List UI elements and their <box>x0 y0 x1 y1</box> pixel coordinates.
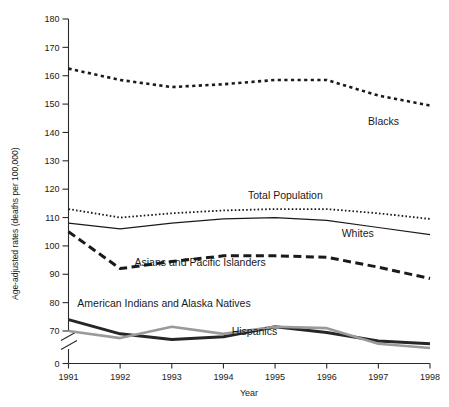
series-label-american-indians-and-alaska-natives: American Indians and Alaska Natives <box>77 297 250 309</box>
y-tick-label: 100 <box>44 241 59 251</box>
series-label-asians-and-pacific-islanders: Asians and Pacific Islanders <box>135 256 266 268</box>
y-tick-label: 80 <box>49 298 59 308</box>
y-tick-label: 160 <box>44 71 59 81</box>
x-tick-label: 1995 <box>265 372 285 382</box>
y-tick-label: 70 <box>49 326 59 336</box>
y-tick-label: 170 <box>44 43 59 53</box>
series-label-total-population: Total Population <box>248 189 323 201</box>
y-axis-title: Age-adjusted rates (deaths per 100,000) <box>10 147 20 300</box>
y-tick-label: 110 <box>45 213 59 223</box>
y-tick-label: 140 <box>44 128 59 138</box>
y-tick-label: 180 <box>44 14 59 24</box>
series-line-total-population <box>69 209 431 219</box>
series-line-blacks <box>69 69 431 106</box>
x-axis-tick-labels: 19911992199319941995199619971998 <box>58 372 440 382</box>
x-axis-title: Year <box>240 388 258 398</box>
series-label-hispanics: Hispanics <box>232 325 278 337</box>
x-tick-label: 1997 <box>368 372 388 382</box>
y-tick-label: 0 <box>54 359 59 369</box>
series-label-whites: Whites <box>342 227 374 239</box>
x-tick-label: 1992 <box>110 372 130 382</box>
y-tick-label: 90 <box>49 269 59 279</box>
x-tick-label: 1998 <box>420 372 440 382</box>
series-line-whites <box>69 218 431 235</box>
chart-container: 0708090100110120130140150160170180 19911… <box>0 0 449 407</box>
y-axis-break-marker <box>61 332 77 350</box>
x-tick-label: 1994 <box>213 372 233 382</box>
x-tick-label: 1991 <box>58 372 78 382</box>
y-axis-tick-labels: 0708090100110120130140150160170180 <box>44 14 59 369</box>
y-tick-label: 130 <box>44 156 59 166</box>
series-label-blacks: Blacks <box>368 115 399 127</box>
x-axis-ticks <box>69 364 431 369</box>
y-tick-label: 150 <box>44 99 59 109</box>
x-tick-label: 1993 <box>162 372 182 382</box>
y-tick-label: 120 <box>44 184 59 194</box>
y-axis-ticks <box>63 19 69 364</box>
x-tick-label: 1996 <box>317 372 337 382</box>
line-chart: 0708090100110120130140150160170180 19911… <box>0 0 449 407</box>
series-inline-labels: BlacksTotal PopulationWhitesAsians and P… <box>77 115 399 337</box>
